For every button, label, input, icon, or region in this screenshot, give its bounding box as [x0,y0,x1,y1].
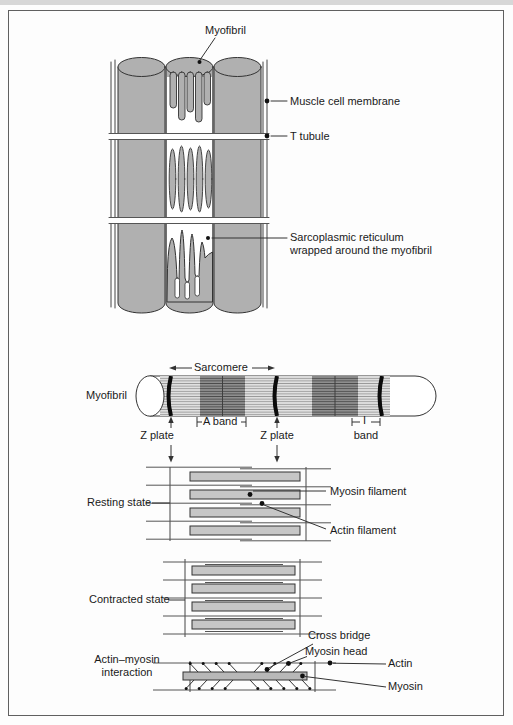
actin-myosin-interaction-label: Actin–myosin interaction [84,653,170,679]
t-tubule-label: T tubule [290,130,330,143]
diagram-artwork [0,0,513,725]
actin-label: Actin [388,657,412,670]
resting-state-figure [146,467,331,541]
contracted-state-label: Contracted state [89,593,170,606]
cross-bridge-label: Cross bridge [308,629,370,642]
contracted-state-figure [163,559,322,637]
a-band-label: A band [203,415,237,428]
muscle-cell-membrane-label: Muscle cell membrane [290,95,400,108]
i-band-word: band [348,429,384,442]
myosin-bar [183,672,307,680]
myosin-filament-label: Myosin filament [330,485,406,498]
muscle-diagram-page: Myofibril Muscle cell membrane T tubule … [0,0,513,725]
myofibril-top-label: Myofibril [205,24,246,37]
myosin-head-label: Myosin head [305,645,367,658]
sarcoplasmic-reticulum-label: Sarcoplasmic reticulum wrapped around th… [290,231,432,257]
myosin-label: Myosin [388,680,423,693]
muscle-cell-figure [109,38,287,313]
z-plate-left-label: Z plate [137,429,177,442]
myofibril-side-label: Myofibril [86,389,127,402]
resting-state-label: Resting state [87,496,151,509]
sarcomere-label: Sarcomere [194,361,248,374]
actin-filament-label: Actin filament [330,524,396,537]
i-band-letter: I [363,414,366,427]
myofibril-cylinder-figure [136,365,436,462]
z-plate-right-label: Z plate [257,429,297,442]
page-edge [0,0,513,5]
